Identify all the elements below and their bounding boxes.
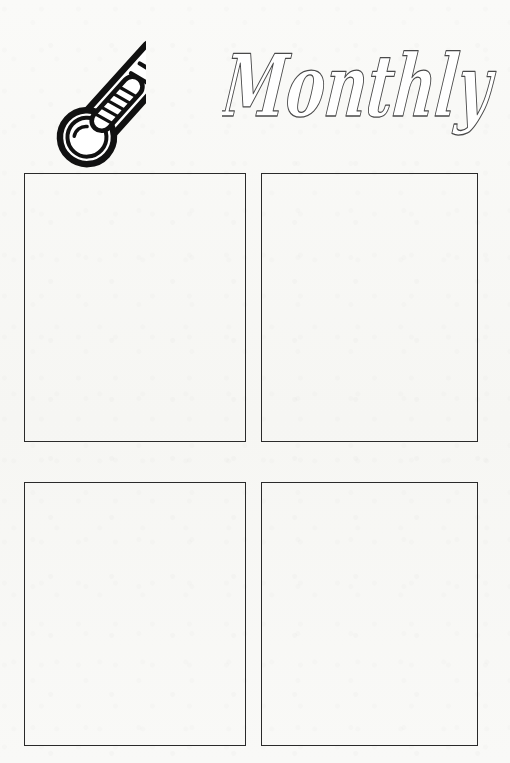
entry-box-4[interactable] bbox=[261, 482, 478, 746]
page-header: Monthly bbox=[0, 0, 510, 168]
entry-box-3[interactable] bbox=[24, 482, 246, 746]
page-title: Monthly bbox=[222, 24, 502, 154]
entry-box-1[interactable] bbox=[24, 173, 246, 442]
entry-box-4-content[interactable] bbox=[262, 483, 477, 745]
entry-box-2[interactable] bbox=[261, 173, 478, 442]
entry-box-3-content[interactable] bbox=[25, 483, 245, 745]
entry-box-1-content[interactable] bbox=[25, 174, 245, 441]
page-title-text: Monthly bbox=[222, 35, 501, 136]
entry-box-2-content[interactable] bbox=[262, 174, 477, 441]
worksheet-page: Monthly bbox=[0, 0, 510, 763]
thermometer-icon bbox=[16, 18, 146, 168]
boxes-grid bbox=[24, 173, 478, 746]
